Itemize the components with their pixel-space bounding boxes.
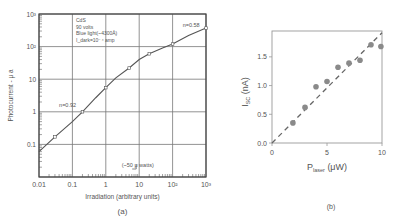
x-tick-label: 10² [168, 181, 179, 188]
y-tick-label: 10³ [27, 11, 37, 18]
y-tick-label: 0.5 [257, 111, 267, 118]
legend-text: 90 volts [76, 24, 94, 30]
y-tick-label: 0.1 [27, 141, 36, 148]
legend-text: CdS [76, 17, 86, 23]
legend-text: I_dark=10⁻⁴ amp [76, 37, 115, 43]
x-tick-label: 1 [104, 181, 108, 188]
annotation: n=0.58 [183, 22, 200, 28]
plot-frame [272, 31, 382, 143]
data-point [324, 79, 330, 85]
data-point [346, 60, 352, 66]
y-axis-label: Photocurrent - μ a [7, 69, 15, 122]
data-point [357, 57, 363, 63]
y-tick-label: 10² [27, 43, 37, 50]
x-tick-label: 0.01 [32, 181, 46, 188]
data-point [335, 64, 341, 70]
y-tick-label: 1.0 [257, 82, 267, 89]
x-axis-label: Irradiation (arbitrary units) [85, 193, 159, 201]
y-tick-label: 1 [32, 108, 36, 115]
legend-text: Blue light(~4300Å) [76, 30, 118, 36]
panel-label-a: (a) [118, 207, 128, 216]
annotation: n=0.92 [59, 102, 76, 108]
data-point [378, 44, 384, 50]
x-tick-label: 5 [325, 149, 329, 156]
fit-line [272, 33, 382, 143]
data-point [313, 84, 319, 90]
data-point [302, 105, 308, 111]
plot-frame [39, 14, 206, 177]
data-point [368, 42, 374, 48]
x-axis-label: Plaser (μW) [307, 162, 347, 173]
panel-label-b: (b) [327, 203, 336, 211]
x-tick-label: 10³ [201, 181, 212, 188]
x-tick-label: 0 [270, 149, 274, 156]
y-axis-label: ISC (nA) [240, 77, 251, 107]
annotation: (~50 μ watts) [122, 162, 154, 168]
x-tick-label: 0.1 [68, 181, 78, 188]
chart-a-photocurrent: 0.010.111010²10³0.111010²10³Irradiation … [0, 0, 397, 223]
x-tick-label: 10 [378, 149, 386, 156]
panel-b: 05100.00.51.01.5Plaser (μW)ISC (nA)(b) [240, 31, 386, 211]
y-tick-label: 10 [29, 76, 37, 83]
data-point [290, 120, 296, 126]
panel-a: 0.010.111010²10³0.111010²10³Irradiation … [7, 11, 212, 217]
x-tick-label: 10 [135, 181, 143, 188]
y-tick-label: 1.5 [257, 53, 267, 60]
y-tick-label: 0.0 [257, 140, 267, 147]
